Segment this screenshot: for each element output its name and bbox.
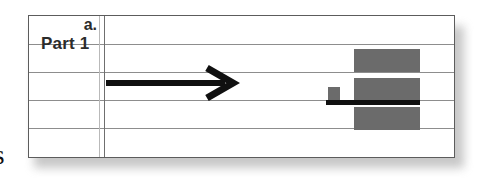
part-1-worksheet-table: Part 1 a. [28, 15, 455, 158]
redaction-block-top [354, 49, 420, 72]
right-arrow-icon [103, 64, 243, 102]
black-strike-bar [326, 100, 420, 105]
redaction-block-bottom [354, 107, 420, 130]
part-heading-label: Part 1 [41, 34, 113, 54]
item-marker-label: a. [29, 16, 97, 34]
redaction-block-middle [354, 78, 420, 101]
page-edge-glyph: s [0, 142, 5, 169]
grid-row-divider-2 [29, 72, 454, 73]
redaction-block-small [328, 87, 340, 101]
